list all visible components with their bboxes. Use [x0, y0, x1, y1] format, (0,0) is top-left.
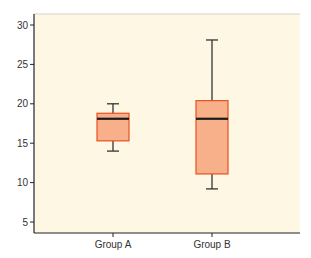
iqr-box — [97, 113, 129, 141]
y-tick-label: 30 — [17, 20, 29, 31]
x-axis-ticks: Group AGroup B — [95, 233, 231, 250]
plot-area — [34, 14, 300, 233]
y-tick-label: 25 — [17, 59, 29, 70]
y-tick-label: 15 — [17, 138, 29, 149]
x-tick-label: Group B — [193, 239, 231, 250]
y-tick-label: 10 — [17, 177, 29, 188]
box-plot-chart: 51015202530 Group AGroup B — [0, 0, 311, 258]
x-tick-label: Group A — [95, 239, 132, 250]
y-tick-label: 5 — [22, 217, 28, 228]
y-tick-label: 20 — [17, 98, 29, 109]
y-axis-ticks: 51015202530 — [17, 20, 34, 228]
iqr-box — [196, 101, 228, 174]
